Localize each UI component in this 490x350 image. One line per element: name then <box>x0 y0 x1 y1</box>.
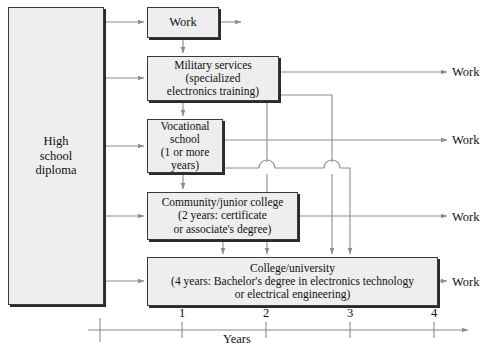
wire-voc-college-c <box>340 168 350 254</box>
wire-voc-college-hop1 <box>259 160 275 168</box>
node-college-university[interactable]: College/university (4 years: Bachelor's … <box>147 257 438 306</box>
node-work-label: Work <box>166 15 199 29</box>
work-output-label-2: Work <box>452 133 479 148</box>
axis-tick-label-1: 1 <box>172 306 192 321</box>
flowchart-diagram: High school diploma Work Military servic… <box>0 0 490 350</box>
axis-title: Years <box>223 332 251 347</box>
work-output-label-3: Work <box>452 210 479 225</box>
work-output-label-4: Work <box>452 275 479 290</box>
node-work[interactable]: Work <box>147 7 219 38</box>
node-vocational-school-label: Vocational school (1 or more years) <box>158 120 213 173</box>
node-high-school-diploma-label: High school diploma <box>33 134 80 177</box>
axis-tick-label-2: 2 <box>256 306 276 321</box>
node-vocational-school[interactable]: Vocational school (1 or more years) <box>147 119 223 173</box>
timeline-axis <box>88 318 468 342</box>
work-output-label-1: Work <box>452 65 479 80</box>
node-military-services[interactable]: Military services (specialized electroni… <box>147 56 279 101</box>
wire-voc-college-hop2 <box>324 160 340 168</box>
node-community-junior-college-label: Community/junior college (2 years: certi… <box>159 196 287 236</box>
node-high-school-diploma[interactable]: High school diploma <box>8 7 104 305</box>
node-community-junior-college[interactable]: Community/junior college (2 years: certi… <box>147 192 298 240</box>
axis-tick-label-3: 3 <box>340 306 360 321</box>
node-military-services-label: Military services (specialized electroni… <box>164 59 262 99</box>
wire-military-to-college-seg1 <box>279 95 332 162</box>
axis-tick-label-4: 4 <box>424 306 444 321</box>
node-college-university-label: College/university (4 years: Bachelor's … <box>168 262 417 302</box>
